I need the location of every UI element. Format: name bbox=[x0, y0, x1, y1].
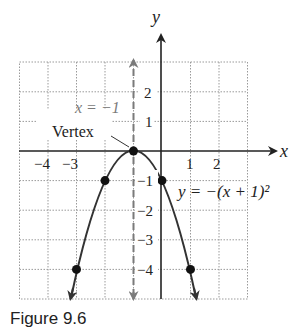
curve-arrow-left-icon bbox=[71, 288, 74, 299]
y-tick-2: 2 bbox=[144, 85, 152, 101]
vertex-leader-line bbox=[111, 136, 129, 147]
y-tick-neg2: −2 bbox=[137, 203, 153, 219]
x-tick-neg4: −4 bbox=[34, 156, 50, 172]
y-tick-neg1: −1 bbox=[137, 173, 153, 189]
y-tick-neg3: −3 bbox=[137, 232, 153, 248]
point bbox=[186, 265, 195, 274]
y-tick-neg4: −4 bbox=[137, 262, 153, 278]
figure-caption: Figure 9.6 bbox=[10, 309, 87, 329]
x-tick-2: 2 bbox=[213, 156, 221, 172]
curve-arrow-right-icon bbox=[194, 288, 197, 299]
point bbox=[72, 265, 81, 274]
point bbox=[158, 176, 167, 185]
x-tick-1: 1 bbox=[186, 156, 194, 172]
y-tick-1: 1 bbox=[145, 114, 153, 130]
point bbox=[101, 176, 110, 185]
axis-of-symmetry-label: x = −1 bbox=[74, 99, 120, 116]
y-axis-label: y bbox=[150, 7, 160, 27]
x-tick-neg3: −3 bbox=[62, 156, 78, 172]
equation-label: y = −(x + 1)² bbox=[176, 182, 270, 201]
vertex-label: Vertex bbox=[52, 123, 94, 140]
parabola-graph: y x x = −1 Vertex 2 1 −1 −2 −3 −4 −4 −3 … bbox=[0, 0, 290, 330]
point-vertex bbox=[129, 147, 138, 156]
x-axis-label: x bbox=[279, 141, 288, 161]
